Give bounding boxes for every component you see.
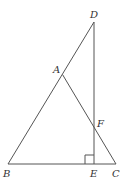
segment-BD [8, 22, 94, 164]
geometry-diagram: D A F B E C [0, 0, 127, 185]
label-E: E [89, 168, 98, 179]
right-angle-marker [85, 155, 94, 164]
label-A: A [52, 64, 60, 75]
label-C: C [112, 168, 120, 179]
segment-AC [63, 75, 117, 165]
label-F: F [96, 118, 105, 129]
label-D: D [89, 9, 98, 20]
label-B: B [2, 168, 10, 179]
